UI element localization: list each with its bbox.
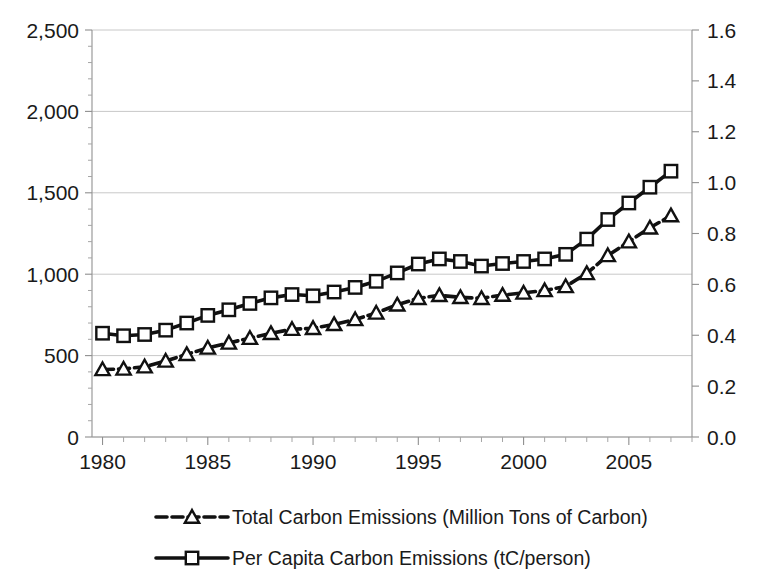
data-point-marker: [96, 327, 108, 339]
data-point-marker: [265, 292, 277, 304]
right-axis: 0.00.20.40.60.81.01.21.41.6: [692, 19, 737, 449]
data-point-marker: [138, 328, 150, 340]
data-point-marker: [475, 260, 487, 272]
right-axis-tick-label: 1.6: [707, 19, 736, 42]
data-point-marker: [517, 255, 529, 267]
data-point-marker: [117, 330, 129, 342]
data-point-marker: [496, 257, 508, 269]
right-axis-tick-label: 1.2: [707, 120, 736, 143]
x-axis-tick-label: 1995: [395, 450, 442, 473]
x-axis: 198019851990199520002005: [79, 437, 692, 473]
right-axis-tick-label: 0.2: [707, 375, 736, 398]
data-point-marker: [644, 181, 656, 193]
data-point-marker: [559, 248, 571, 260]
right-axis-tick-label: 0.4: [707, 324, 737, 347]
legend-label: Per Capita Carbon Emissions (tC/person): [232, 547, 591, 569]
right-axis-tick-label: 0.0: [707, 426, 736, 449]
data-point-marker: [244, 297, 256, 309]
left-axis-tick-label: 500: [44, 344, 79, 367]
data-point-marker: [454, 255, 466, 267]
carbon-emissions-chart: 05001,0001,5002,0002,5000.00.20.40.60.81…: [0, 0, 783, 580]
right-axis-tick-label: 0.8: [707, 222, 736, 245]
data-point-marker: [433, 253, 445, 265]
data-point-marker: [181, 317, 193, 329]
data-point-marker: [623, 197, 635, 209]
data-point-marker: [223, 304, 235, 316]
data-point-marker: [286, 288, 298, 300]
legend: Total Carbon Emissions (Million Tons of …: [156, 506, 648, 569]
data-point-marker: [412, 258, 424, 270]
data-point-marker: [328, 286, 340, 298]
data-point-marker: [581, 233, 593, 245]
data-point-marker: [370, 275, 382, 287]
legend-label: Total Carbon Emissions (Million Tons of …: [232, 506, 648, 528]
gridlines: [92, 30, 692, 437]
data-point-marker: [349, 281, 361, 293]
data-point-marker: [665, 165, 677, 177]
legend-item: Total Carbon Emissions (Million Tons of …: [156, 506, 648, 528]
x-axis-tick-label: 1990: [290, 450, 337, 473]
legend-marker: [186, 552, 198, 564]
right-axis-tick-label: 1.0: [707, 171, 736, 194]
left-axis: 05001,0001,5002,0002,500: [26, 19, 92, 449]
data-point-marker: [622, 235, 636, 248]
left-axis-tick-label: 2,000: [26, 100, 79, 123]
data-point-marker: [159, 324, 171, 336]
legend-item: Per Capita Carbon Emissions (tC/person): [156, 547, 591, 569]
left-axis-tick-label: 1,000: [26, 263, 79, 286]
data-point-marker: [369, 306, 383, 319]
series-line: [103, 171, 671, 336]
left-axis-tick-label: 0: [67, 426, 79, 449]
left-axis-tick-label: 1,500: [26, 181, 79, 204]
x-axis-tick-label: 1980: [79, 450, 126, 473]
chart-canvas: 05001,0001,5002,0002,5000.00.20.40.60.81…: [0, 0, 783, 580]
left-axis-tick-label: 2,500: [26, 19, 79, 42]
data-point-marker: [664, 209, 678, 222]
data-point-marker: [602, 213, 614, 225]
data-point-marker: [307, 290, 319, 302]
right-axis-tick-label: 0.6: [707, 273, 736, 296]
data-point-marker: [538, 253, 550, 265]
data-point-marker: [643, 221, 657, 234]
x-axis-tick-label: 2000: [500, 450, 547, 473]
data-point-marker: [202, 309, 214, 321]
x-axis-tick-label: 2005: [605, 450, 652, 473]
x-axis-tick-label: 1985: [184, 450, 231, 473]
data-point-marker: [391, 267, 403, 279]
series-per-capita: [96, 165, 677, 342]
right-axis-tick-label: 1.4: [707, 69, 737, 92]
